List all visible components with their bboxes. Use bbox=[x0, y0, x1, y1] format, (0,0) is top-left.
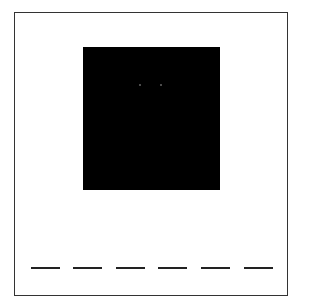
letter-blank-2[interactable] bbox=[73, 267, 102, 269]
puzzle-picture bbox=[83, 47, 220, 190]
letter-blank-6[interactable] bbox=[244, 267, 273, 269]
eye-dot-right bbox=[160, 84, 162, 86]
eye-dot-left bbox=[139, 84, 141, 86]
letter-blank-1[interactable] bbox=[31, 267, 60, 269]
letter-blanks bbox=[31, 267, 274, 271]
letter-blank-4[interactable] bbox=[158, 267, 187, 269]
letter-blank-5[interactable] bbox=[201, 267, 230, 269]
letter-blank-3[interactable] bbox=[116, 267, 145, 269]
